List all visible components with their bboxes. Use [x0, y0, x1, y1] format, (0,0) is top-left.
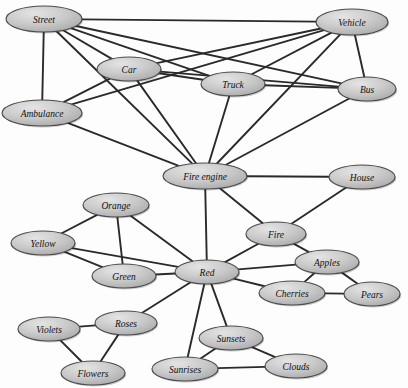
- graph-svg-surface: StreetVehicleCarTruckBusAmbulanceFire en…: [0, 0, 408, 388]
- graph-edge-sunsets-clouds: [252, 347, 275, 357]
- node-layer: StreetVehicleCarTruckBusAmbulanceFire en…: [2, 6, 401, 386]
- graph-edge-vehicle-bus: [355, 35, 364, 77]
- node-label: Apples: [313, 258, 340, 268]
- graph-edge-car-fireengine: [137, 81, 196, 164]
- node-label: Clouds: [283, 362, 310, 372]
- graph-node-violets[interactable]: Violets: [18, 317, 81, 342]
- graph-edge-street-fireengine: [57, 31, 193, 163]
- graph-edge-red-roses: [142, 282, 190, 312]
- graph-edge-vehicle-car: [157, 29, 321, 64]
- graph-edge-apples-cherries: [305, 273, 315, 282]
- graph-node-sunsets[interactable]: Sunsets: [199, 326, 264, 351]
- node-label: Pears: [360, 290, 383, 300]
- graph-node-street[interactable]: Street: [6, 6, 83, 33]
- graph-edge-red-sunsets: [211, 284, 226, 326]
- graph-edge-bus-fireengine: [226, 99, 349, 165]
- graph-edge-sunrises-clouds: [218, 367, 265, 368]
- graph-edge-fireengine-red: [205, 189, 206, 260]
- graph-node-cherries[interactable]: Cherries: [259, 281, 326, 306]
- graph-edge-street-ambulance: [42, 32, 43, 100]
- graph-node-apples[interactable]: Apples: [295, 250, 360, 275]
- node-label: Violets: [36, 325, 62, 335]
- node-label: Orange: [101, 201, 130, 211]
- graph-edge-fireengine-house: [247, 176, 329, 177]
- graph-edge-fireengine-fire: [220, 188, 263, 223]
- graph-edge-orange-red: [131, 216, 193, 262]
- graph-edge-green-red: [156, 274, 176, 275]
- network-diagram: StreetVehicleCarTruckBusAmbulanceFire en…: [0, 0, 408, 388]
- graph-edge-red-apples: [238, 265, 296, 270]
- graph-edge-fire-apples: [294, 244, 309, 252]
- node-label: Fire engine: [182, 172, 227, 182]
- node-label: Red: [199, 268, 215, 278]
- node-label: House: [349, 173, 374, 183]
- graph-node-yellow[interactable]: Yellow: [11, 231, 76, 256]
- node-label: Vehicle: [338, 18, 365, 28]
- graph-node-orange[interactable]: Orange: [83, 193, 150, 218]
- graph-edge-house-fire: [292, 188, 347, 224]
- graph-node-truck[interactable]: Truck: [201, 72, 266, 97]
- graph-edge-roses-flowers: [101, 335, 119, 362]
- graph-edge-apples-pears: [342, 273, 358, 284]
- node-label: Bus: [360, 85, 375, 95]
- node-label: Fire: [267, 230, 284, 240]
- node-label: Green: [112, 272, 136, 282]
- graph-edge-ambulance-fireengine: [68, 123, 179, 166]
- graph-node-pears[interactable]: Pears: [344, 282, 401, 307]
- graph-node-green[interactable]: Green: [92, 264, 157, 289]
- node-label: Yellow: [31, 239, 57, 249]
- graph-edge-violets-flowers: [60, 340, 82, 362]
- graph-node-roses[interactable]: Roses: [95, 311, 158, 336]
- node-label: Street: [33, 15, 55, 25]
- graph-node-bus[interactable]: Bus: [338, 77, 397, 102]
- graph-node-red[interactable]: Red: [175, 260, 240, 285]
- graph-node-fire[interactable]: Fire: [246, 222, 307, 247]
- edge-layer: [42, 19, 364, 368]
- graph-edge-yellow-green: [65, 252, 103, 267]
- graph-node-clouds[interactable]: Clouds: [265, 354, 328, 379]
- node-label: Cherries: [275, 289, 309, 299]
- graph-edge-red-cherries: [234, 279, 265, 287]
- graph-node-fireengine[interactable]: Fire engine: [163, 163, 248, 190]
- node-label: Flowers: [76, 369, 108, 379]
- node-label: Car: [122, 65, 137, 75]
- graph-edge-car-ambulance: [64, 79, 110, 102]
- graph-edge-street-vehicle: [82, 19, 316, 21]
- graph-edge-vehicle-fireengine: [217, 34, 340, 163]
- graph-node-car[interactable]: Car: [97, 57, 162, 82]
- graph-node-ambulance[interactable]: Ambulance: [2, 100, 83, 127]
- node-label: Sunsets: [217, 334, 246, 344]
- graph-node-flowers[interactable]: Flowers: [61, 361, 126, 386]
- graph-node-vehicle[interactable]: Vehicle: [316, 9, 389, 36]
- node-label: Ambulance: [20, 109, 64, 119]
- graph-edge-red-sunrises: [188, 284, 205, 357]
- graph-edge-orange-yellow: [62, 215, 97, 233]
- node-label: Sunrises: [169, 365, 202, 375]
- graph-edge-fire-red: [225, 244, 258, 262]
- node-label: Truck: [222, 80, 244, 90]
- graph-node-sunrises[interactable]: Sunrises: [152, 357, 219, 382]
- graph-edge-sunsets-sunrises: [201, 348, 216, 358]
- node-label: Roses: [114, 319, 137, 329]
- graph-node-house[interactable]: House: [329, 165, 396, 190]
- graph-edge-violets-roses: [79, 325, 95, 326]
